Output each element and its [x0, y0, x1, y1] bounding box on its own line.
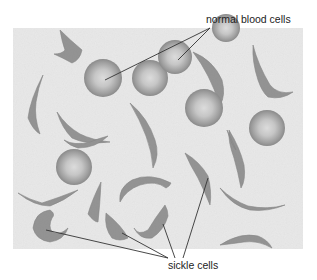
normal-cell	[84, 59, 122, 97]
normal-cell	[249, 110, 285, 146]
sickle-cells-label: sickle cells	[168, 259, 218, 271]
normal-cell	[56, 149, 92, 185]
sickle-cell-diagram: normal blood cells sickle cells	[0, 0, 317, 280]
normal-cell	[185, 89, 223, 127]
normal-cells-label: normal blood cells	[206, 13, 291, 25]
